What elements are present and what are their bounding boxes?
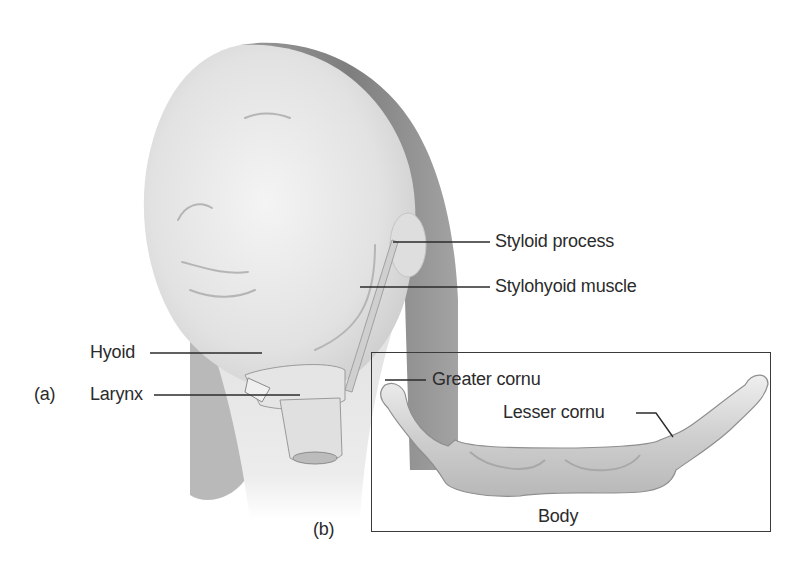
- panel-b-frame: [371, 352, 771, 532]
- label-hyoid: Hyoid: [90, 343, 135, 361]
- label-body: Body: [538, 507, 578, 525]
- label-styloid-process: Styloid process: [495, 232, 614, 250]
- label-greater-cornu: Greater cornu: [432, 370, 540, 388]
- panel-b-label: (b): [313, 520, 334, 538]
- label-stylohyoid-muscle: Stylohyoid muscle: [495, 277, 637, 295]
- label-lesser-cornu: Lesser cornu: [503, 403, 605, 421]
- panel-a-label: (a): [34, 385, 55, 403]
- label-larynx: Larynx: [90, 385, 143, 403]
